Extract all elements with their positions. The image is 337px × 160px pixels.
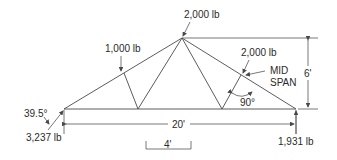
web-left-vertical <box>124 73 138 109</box>
left-panel-load-label: 1,000 lb <box>105 43 141 54</box>
right-load-arrow-icon <box>243 60 249 73</box>
left-reaction-label: 3,237 lb <box>26 132 62 143</box>
right-load-label: 2,000 lb <box>241 47 277 58</box>
web-right-perpendicular <box>222 75 241 109</box>
span-label: 20' <box>172 119 185 130</box>
angle-arc-icon <box>232 92 252 96</box>
left-reaction: 39.5° 3,237 lb <box>24 108 63 143</box>
right-angle-annotation: 90° <box>232 92 255 108</box>
mid-span-annotation: MID SPAN <box>246 65 297 88</box>
panel-dimension: 4' <box>146 139 191 150</box>
left-angle-label: 39.5° <box>24 108 47 119</box>
web-left-diagonal <box>138 38 182 109</box>
truss-diagram: 6' 20' 4' 2,000 lb 1,000 lb 2,000 lb MID… <box>0 0 337 160</box>
apex-load-arrow-icon <box>183 22 190 36</box>
mid-span-line2: SPAN <box>270 77 297 88</box>
right-reaction-label: 1,931 lb <box>278 136 314 147</box>
web-center-diagonal <box>182 38 222 109</box>
span-dimension: 20' <box>64 110 296 134</box>
right-reaction: 1,931 lb <box>278 111 314 147</box>
mid-span-line1: MID <box>270 65 288 76</box>
right-angle-label: 90° <box>240 97 255 108</box>
left-panel-load: 1,000 lb <box>105 43 141 71</box>
apex-load-label: 2,000 lb <box>184 9 220 20</box>
panel-label: 4' <box>164 139 172 150</box>
mid-span-arrow-icon <box>246 71 265 75</box>
left-reaction-arrow-icon <box>48 111 63 130</box>
height-label: 6' <box>304 68 312 79</box>
apex-load: 2,000 lb <box>183 9 220 36</box>
